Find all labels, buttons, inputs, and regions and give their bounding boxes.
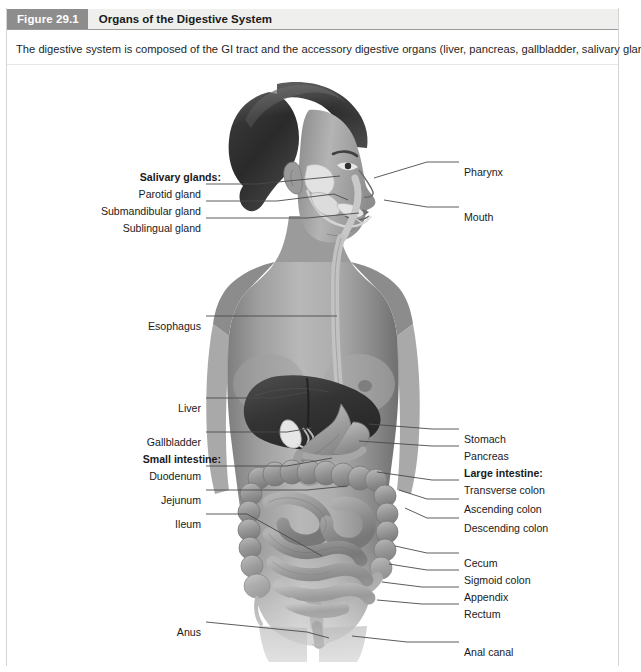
label-large-intestine: Large intestine: bbox=[464, 467, 543, 479]
figure-header: Figure 29.1 Organs of the Digestive Syst… bbox=[7, 9, 618, 30]
label-salivary-glands: Salivary glands: bbox=[140, 171, 221, 183]
label-cecum: Cecum bbox=[464, 557, 498, 569]
label-sigmoid-colon: Sigmoid colon bbox=[464, 574, 531, 586]
label-appendix: Appendix bbox=[464, 591, 508, 603]
figure-number-badge: Figure 29.1 bbox=[7, 9, 88, 29]
figure-panel: Figure 29.1 Organs of the Digestive Syst… bbox=[0, 0, 641, 672]
label-liver: Liver bbox=[178, 402, 201, 414]
label-submandibular-gland: Submandibular gland bbox=[101, 205, 201, 217]
label-sublingual-gland: Sublingual gland bbox=[123, 222, 201, 234]
label-anus: Anus bbox=[177, 626, 201, 638]
label-stomach: Stomach bbox=[464, 433, 506, 445]
label-anal-canal: Anal canal bbox=[464, 646, 513, 658]
figure-caption: The digestive system is composed of the … bbox=[16, 42, 612, 56]
label-transverse-colon: Transverse colon bbox=[464, 484, 545, 496]
label-parotid-gland: Parotid gland bbox=[139, 188, 201, 200]
label-ileum: Ileum bbox=[175, 518, 201, 530]
digestive-system-anatomy-illustration bbox=[7, 66, 618, 662]
label-rectum: Rectum bbox=[464, 608, 501, 620]
figure-title: Organs of the Digestive System bbox=[88, 9, 618, 29]
illustration-stage: Salivary glands:Parotid glandSubmandibul… bbox=[7, 66, 618, 662]
label-duodenum: Duodenum bbox=[149, 470, 201, 482]
label-descending-colon: Descending colon bbox=[464, 522, 548, 534]
label-small-intestine: Small intestine: bbox=[143, 453, 221, 465]
label-jejunum: Jejunum bbox=[161, 494, 201, 506]
label-pancreas: Pancreas bbox=[464, 450, 509, 462]
page-rule-right bbox=[618, 8, 619, 666]
caption-divider bbox=[7, 64, 618, 65]
label-ascending-colon: Ascending colon bbox=[464, 503, 542, 515]
label-esophagus: Esophagus bbox=[148, 320, 201, 332]
label-mouth: Mouth bbox=[464, 211, 493, 223]
label-pharynx: Pharynx bbox=[464, 166, 503, 178]
label-gallbladder: Gallbladder bbox=[147, 436, 201, 448]
